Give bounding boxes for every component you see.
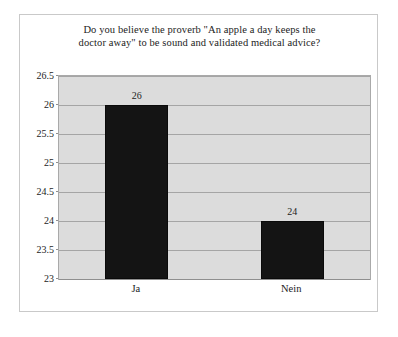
chart-title-line-1: Do you believe the proverb "An apple a d… bbox=[20, 23, 379, 36]
bar-value-label: 26 bbox=[132, 90, 142, 101]
chart-title: Do you believe the proverb "An apple a d… bbox=[20, 23, 379, 49]
bar-nein bbox=[261, 221, 324, 279]
x-axis-tick-label: Ja bbox=[131, 283, 140, 294]
plot-area: 2624 bbox=[58, 75, 371, 280]
chart-figure: Do you believe the proverb "An apple a d… bbox=[19, 14, 378, 312]
chart-title-line-2: doctor away" to be sound and validated m… bbox=[20, 36, 379, 49]
x-axis-tick-label: Nein bbox=[281, 283, 301, 294]
gridline bbox=[59, 76, 370, 77]
x-axis-line bbox=[59, 279, 370, 280]
x-axis-labels: JaNein bbox=[58, 281, 369, 301]
bar-ja bbox=[105, 105, 168, 279]
bar-value-label: 24 bbox=[287, 206, 297, 217]
